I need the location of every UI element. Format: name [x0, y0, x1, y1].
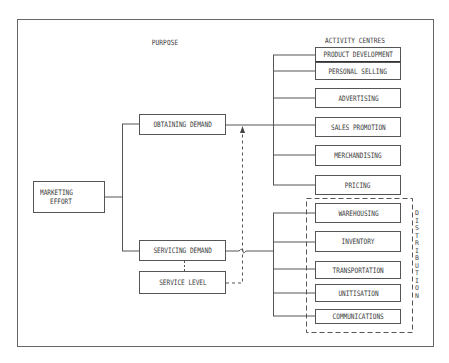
activity-label: INVENTORY [342, 237, 375, 246]
servicing-demand-box: SERVICING DEMAND [139, 240, 226, 261]
marketing-effort-box: MARKETING EFFORT [33, 181, 105, 213]
root-line2: EFFORT [50, 197, 72, 206]
service-level-box: SERVICE LEVEL [139, 271, 226, 294]
activity-box-communications: COMMUNICATIONS [315, 309, 401, 324]
activity-box-pricing: PRICING [315, 175, 401, 195]
marketing-effort-diagram: PURPOSE ACTIVITY CENTRES MARKETING EFFOR… [0, 0, 449, 363]
activity-label: WAREHOUSING [338, 209, 378, 218]
purpose-heading: PURPOSE [144, 38, 187, 47]
activity-box-product-development: PRODUCT DEVELOPMENT [315, 47, 401, 62]
activity-label: MERCHANDISING [334, 151, 381, 160]
service-level-label: SERVICE LEVEL [159, 278, 206, 287]
servicing-demand-label: SERVICING DEMAND [153, 246, 211, 255]
activity-label: TRANSPORTATION [332, 266, 383, 275]
activity-label: COMMUNICATIONS [332, 312, 383, 321]
activity-label: SALES PROMOTION [331, 123, 386, 132]
activity-label: UNITISATION [338, 289, 378, 298]
root-line1: MARKETING [40, 188, 73, 197]
activity-label: PERSONAL SELLING [329, 67, 387, 76]
activity-label: PRODUCT DEVELOPMENT [323, 50, 392, 59]
activity-box-personal-selling: PERSONAL SELLING [315, 62, 401, 80]
activity-centres-heading: ACTIVITY CENTRES [317, 36, 394, 45]
activity-box-advertising: ADVERTISING [315, 88, 401, 108]
activity-label: ADVERTISING [338, 94, 378, 103]
activity-box-inventory: INVENTORY [315, 231, 401, 252]
obtaining-demand-label: OBTAINING DEMAND [153, 120, 211, 129]
obtaining-demand-box: OBTAINING DEMAND [139, 114, 226, 135]
activity-box-sales-promotion: SALES PROMOTION [315, 117, 401, 137]
activity-box-unitisation: UNITISATION [315, 284, 401, 302]
arrowhead-icon [240, 126, 245, 133]
distribution-vertical-label: DISTRIBUTION [413, 210, 421, 300]
activity-box-merchandising: MERCHANDISING [315, 145, 401, 166]
activity-box-warehousing: WAREHOUSING [315, 203, 401, 223]
activity-label: PRICING [345, 181, 371, 190]
activity-box-transportation: TRANSPORTATION [315, 261, 401, 279]
